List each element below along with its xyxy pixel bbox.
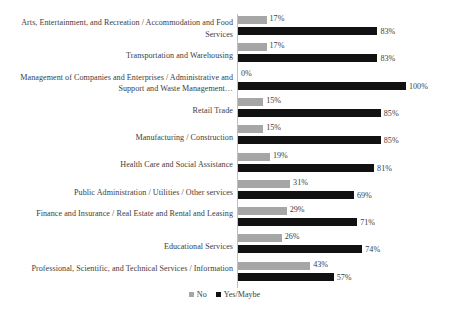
category-label: Transportation and Warehousing [1, 50, 233, 61]
chart-legend: NoYes/Maybe [0, 290, 449, 299]
bar-no [238, 16, 267, 24]
bar-yes-maybe [238, 27, 377, 35]
legend-label: No [197, 290, 207, 299]
legend-label: Yes/Maybe [224, 290, 261, 299]
legend-swatch-icon [189, 292, 195, 298]
bar-value-yes-maybe: 57% [337, 274, 352, 282]
category-label: Finance and Insurance / Real Estate and … [1, 208, 233, 219]
bar-no [238, 43, 267, 51]
bar-yes-maybe [238, 136, 381, 144]
category-label: Educational Services [1, 241, 233, 252]
legend-swatch-icon [216, 292, 222, 298]
bar-no [238, 207, 287, 215]
bar-yes-maybe [238, 218, 357, 226]
bar-no [238, 153, 270, 161]
legend-item-yes-maybe[interactable]: Yes/Maybe [216, 290, 261, 299]
bar-value-yes-maybe: 100% [409, 83, 428, 91]
bar-value-no: 15% [266, 97, 281, 105]
bar-yes-maybe [238, 191, 354, 199]
bar-yes-maybe [238, 54, 377, 62]
bar-value-yes-maybe: 83% [380, 28, 395, 36]
bar-no [238, 234, 282, 242]
bar-yes-maybe [238, 245, 362, 253]
bar-value-no: 19% [273, 152, 288, 160]
category-label: Professional, Scientific, and Technical … [1, 263, 233, 274]
bar-no [238, 180, 290, 188]
category-label: Management of Companies and Enterprises … [1, 72, 233, 94]
category-label: Retail Trade [1, 105, 233, 116]
plot-area: Arts, Entertainment, and Recreation / Ac… [0, 0, 449, 289]
bar-value-no: 29% [290, 206, 305, 214]
bar-value-no: 43% [313, 261, 328, 269]
bar-yes-maybe [238, 82, 406, 90]
bar-yes-maybe [238, 273, 334, 281]
bar-value-yes-maybe: 69% [357, 192, 372, 200]
bar-value-yes-maybe: 85% [384, 110, 399, 118]
bar-value-no: 26% [285, 233, 300, 241]
bar-value-no: 31% [293, 179, 308, 187]
category-label: Manufacturing / Construction [1, 132, 233, 143]
bar-value-yes-maybe: 85% [384, 137, 399, 145]
bar-no [238, 125, 263, 133]
bar-value-yes-maybe: 83% [380, 55, 395, 63]
category-label: Public Administration / Utilities / Othe… [1, 187, 233, 198]
category-label: Health Care and Social Assistance [1, 159, 233, 170]
bar-value-yes-maybe: 81% [377, 165, 392, 173]
legend-item-no[interactable]: No [189, 290, 207, 299]
bar-yes-maybe [238, 109, 381, 117]
bar-value-yes-maybe: 74% [365, 246, 380, 254]
bar-no [238, 98, 263, 106]
category-label: Arts, Entertainment, and Recreation / Ac… [1, 17, 233, 39]
horizontal-bar-chart: Arts, Entertainment, and Recreation / Ac… [0, 0, 449, 321]
bar-value-no: 15% [266, 124, 281, 132]
bar-value-no: 17% [270, 15, 285, 23]
bar-value-yes-maybe: 71% [360, 219, 375, 227]
bar-value-no: 17% [270, 42, 285, 50]
bar-value-no: 0% [241, 70, 252, 78]
bar-yes-maybe [238, 164, 374, 172]
bar-no [238, 262, 310, 270]
